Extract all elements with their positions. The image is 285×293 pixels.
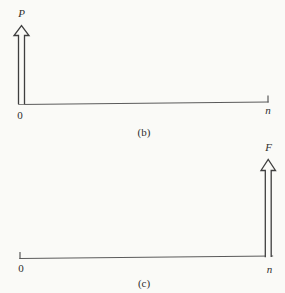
figure-b-force-label: P xyxy=(17,7,25,19)
figure-c-axis xyxy=(20,256,273,259)
figure-b-caption: (b) xyxy=(138,126,151,139)
figure-c-origin-label: 0 xyxy=(18,262,24,274)
figure-b-origin-label: 0 xyxy=(17,109,23,121)
figure-b-axis xyxy=(19,102,268,105)
figure-b-end-label: n xyxy=(265,104,271,116)
figure-b-force-arrow-up xyxy=(14,26,29,105)
figure-c-force-label: F xyxy=(264,141,272,153)
figure-c-group: F 0 n (c) xyxy=(18,141,275,290)
figure-c-end-label: n xyxy=(267,263,273,275)
diagram-svg: P 0 n (b) F 0 n (c) xyxy=(0,0,285,293)
figure-c-force-arrow-up xyxy=(261,160,276,258)
scanned-figure-page: P 0 n (b) F 0 n (c) xyxy=(0,0,285,293)
figure-b-group: P 0 n (b) xyxy=(14,7,271,139)
figure-c-caption: (c) xyxy=(138,277,151,290)
